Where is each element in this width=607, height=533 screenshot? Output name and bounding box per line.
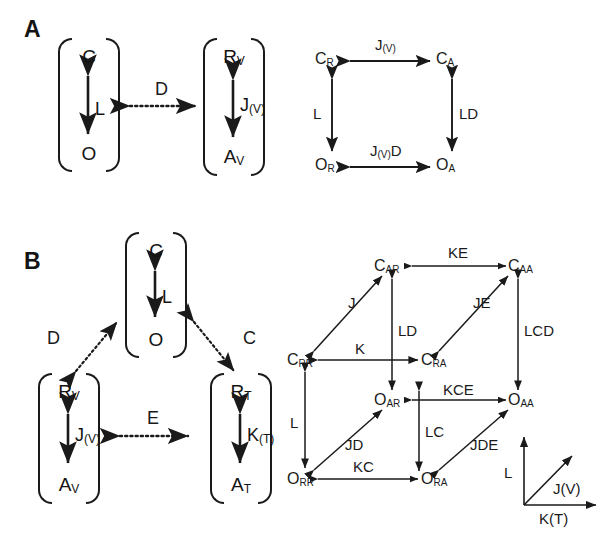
edge-label-l-left: L bbox=[313, 106, 321, 121]
state-symbol-av: AV bbox=[38, 475, 100, 495]
state-symbol-rv: RV bbox=[203, 47, 265, 67]
node-crr: CRR bbox=[287, 352, 313, 369]
node-car: CAR bbox=[374, 258, 399, 275]
panel-b-coupling-c-label: C bbox=[243, 329, 256, 347]
edge-label-k: K bbox=[355, 341, 365, 356]
edge-label-jvd-bottom: J(V)D bbox=[370, 143, 402, 160]
edge-label-jd: JD bbox=[345, 437, 363, 452]
node-orr: ORR bbox=[287, 471, 314, 488]
axis-label-l: L bbox=[504, 465, 512, 480]
state-symbol-c: C bbox=[58, 47, 120, 66]
node-ca: CA bbox=[436, 51, 454, 68]
node-oa: OA bbox=[436, 157, 455, 174]
panel-a-box-closed-open: C O bbox=[58, 38, 120, 172]
state-symbol-av: AV bbox=[203, 147, 265, 167]
node-ora: ORA bbox=[421, 471, 447, 488]
panel-b-coupling-d-label: D bbox=[47, 329, 60, 347]
edge-label-ld: LD bbox=[398, 323, 417, 338]
edge-label-je: JE bbox=[473, 295, 491, 310]
edge-label-jde: JDE bbox=[470, 437, 498, 452]
panel-b-coupling-d-arrow bbox=[76, 322, 117, 371]
panel-b-box-closed-open: C O bbox=[125, 232, 187, 358]
panel-b-label-kt: K(T) bbox=[247, 426, 274, 445]
figure-canvas: A B bbox=[0, 0, 607, 533]
axis-label-jv: J(V) bbox=[553, 481, 581, 496]
edge-label-lc: LC bbox=[425, 424, 444, 439]
panel-b-label-jv: J(V) bbox=[75, 426, 100, 445]
panel-a-label-jv: J(V) bbox=[240, 96, 265, 115]
panel-b-coupling-c-arrow bbox=[194, 322, 234, 371]
edge-label-ld-right: LD bbox=[459, 106, 478, 121]
edge-label-jv-top: J(V) bbox=[375, 37, 396, 54]
node-caa: CAA bbox=[508, 258, 533, 275]
node-oar: OAR bbox=[374, 392, 400, 409]
edge-label-ke: KE bbox=[448, 245, 468, 260]
panel-a-label-l: L bbox=[95, 100, 105, 118]
node-cr: CR bbox=[315, 51, 334, 68]
axis-label-kt: K(T) bbox=[539, 511, 568, 526]
node-oaa: OAA bbox=[508, 392, 534, 409]
edge-label-l: L bbox=[290, 415, 298, 430]
panel-b-coupling-e-label: E bbox=[147, 409, 159, 427]
panel-b-label-l: L bbox=[162, 288, 172, 306]
edge-label-j: J bbox=[348, 295, 356, 310]
edge-label-kce: KCE bbox=[443, 382, 474, 397]
state-symbol-rt: RT bbox=[210, 382, 272, 402]
edge-label-kc: KC bbox=[353, 459, 374, 474]
node-cra: CRA bbox=[421, 352, 446, 369]
node-or: OR bbox=[315, 157, 335, 174]
panel-a-coupling-d-label: D bbox=[155, 80, 168, 98]
state-symbol-rv: RV bbox=[38, 382, 100, 402]
state-symbol-at: AT bbox=[210, 475, 272, 495]
state-symbol-o: O bbox=[125, 330, 187, 349]
state-symbol-c: C bbox=[125, 241, 187, 260]
edge-label-lcd: LCD bbox=[524, 323, 554, 338]
state-symbol-o: O bbox=[58, 144, 120, 163]
